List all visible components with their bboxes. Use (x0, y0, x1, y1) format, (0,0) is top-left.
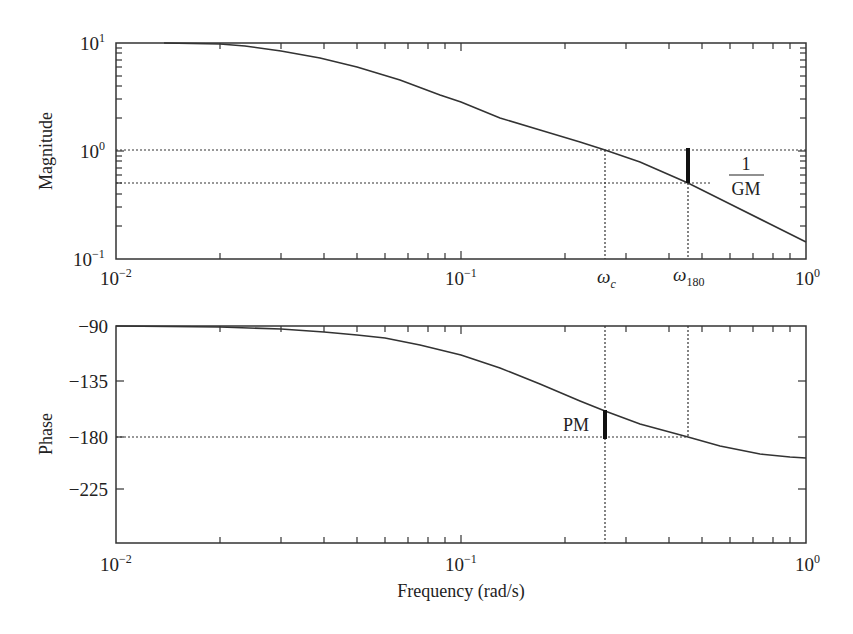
gm-denominator: GM (731, 179, 760, 199)
phase-x-ticks (220, 326, 790, 543)
phase-xtick-10e-1: 10−1 (445, 552, 477, 575)
phase-xtick-10e-2: 10−2 (100, 552, 132, 575)
gm-numerator: 1 (742, 154, 751, 174)
mag-tick-10e-1: 10−1 (73, 247, 105, 270)
mag-tick-10e0: 100 (80, 139, 105, 162)
phase-y-ticks (116, 381, 806, 489)
phase-panel: PM −90 −135 −180 −225 10−2 10−1 100 Phas… (36, 316, 820, 602)
phase-xtick-10e0: 100 (795, 552, 820, 575)
phase-tick-m180: −180 (69, 427, 108, 448)
magnitude-curve (164, 43, 806, 242)
omega-180-label: ω180 (673, 264, 704, 289)
pm-label: PM (563, 415, 589, 435)
omega-c-label: ωc (597, 266, 616, 291)
phase-tick-m225: −225 (69, 479, 108, 500)
magnitude-panel: 1 GM 101 100 10−1 10−2 10−1 100 ωc ω180 … (36, 31, 820, 291)
mag-xtick-10e-2: 10−2 (100, 266, 132, 289)
mag-xtick-10e0: 100 (795, 266, 820, 289)
phase-curve (116, 326, 806, 458)
frequency-axis-title: Frequency (rad/s) (397, 581, 524, 602)
bode-plot: 1 GM 101 100 10−1 10−2 10−1 100 ωc ω180 … (0, 0, 853, 634)
phase-tick-m90: −90 (78, 316, 108, 337)
magnitude-axis-title: Magnitude (36, 112, 56, 190)
phase-tick-m135: −135 (69, 371, 108, 392)
phase-axes-frame (116, 326, 806, 543)
magnitude-x-ticks (220, 43, 790, 259)
phase-axis-title: Phase (36, 413, 56, 455)
mag-tick-10e1: 101 (80, 31, 105, 54)
magnitude-y-ticks (116, 48, 806, 226)
mag-xtick-10e-1: 10−1 (445, 266, 477, 289)
magnitude-axes-frame (116, 43, 806, 259)
